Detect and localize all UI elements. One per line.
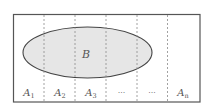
partition-diagram: B A1 A2 A3 ··· ··· An bbox=[0, 0, 210, 110]
set-b-label: B bbox=[81, 48, 90, 61]
partition-label-ellipsis-2: ··· bbox=[148, 88, 156, 97]
partition-label-ellipsis-1: ··· bbox=[118, 88, 126, 97]
